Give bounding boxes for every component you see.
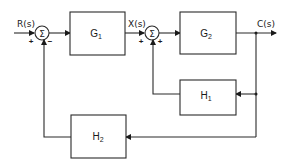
block-h1: H1	[180, 80, 236, 115]
intermediate-signal: X(s)	[125, 19, 146, 33]
input-label: R(s)	[17, 19, 35, 29]
connector-h2-sum1	[44, 40, 71, 137]
output-signal: C(s)	[236, 19, 276, 35]
plus-sign: +	[158, 37, 163, 46]
summing-junction-2: Σ + +	[139, 26, 163, 46]
plus-sign: +	[29, 37, 34, 46]
block-h2-letter: H	[92, 131, 99, 142]
connector-h1-sum2	[153, 40, 180, 94]
output-label: C(s)	[257, 19, 275, 29]
block-g1-subscript: 1	[98, 33, 102, 40]
block-g2-subscript: 2	[208, 33, 212, 40]
intermediate-label: X(s)	[128, 19, 146, 29]
input-signal: R(s)	[14, 19, 35, 33]
minus-sign: −	[48, 37, 53, 46]
block-h1-letter: H	[200, 90, 207, 101]
block-g2: G2	[180, 12, 236, 54]
sigma-icon: Σ	[39, 29, 45, 39]
summing-junction-1: Σ + −	[29, 26, 53, 46]
block-h2: H2	[71, 115, 126, 158]
block-g1: G1	[70, 12, 125, 55]
block-h2-subscript: 2	[100, 136, 104, 143]
plus-sign: +	[139, 37, 144, 46]
block-h1-subscript: 1	[208, 95, 212, 102]
block-diagram: R(s) Σ + − G1 X(s) Σ + + G2 C(s)	[0, 0, 289, 168]
sigma-icon: Σ	[149, 29, 155, 39]
